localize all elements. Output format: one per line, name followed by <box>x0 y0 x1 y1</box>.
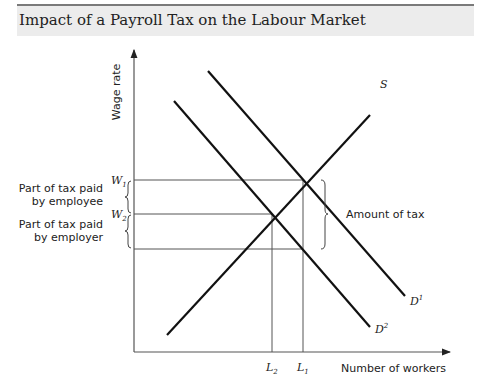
w2-label: W2 <box>111 208 127 223</box>
d2-label: D2 <box>374 322 389 336</box>
employer-share-label: Part of tax paidby employer <box>19 218 104 244</box>
employee-share-label: Part of tax paidby employee <box>19 182 103 208</box>
amount-of-tax-label: Amount of tax <box>346 208 425 221</box>
amount-of-tax-brace <box>321 180 328 249</box>
l1-label: L1 <box>296 361 309 376</box>
x-axis-label: Number of workers <box>341 362 446 375</box>
labour-market-chart: Wage rate Number of workers S D1 D2 W1 W… <box>0 0 481 392</box>
l2-label: L2 <box>265 361 278 376</box>
supply-label: S <box>380 78 388 91</box>
demand-curve-d1 <box>208 71 405 296</box>
supply-curve <box>167 115 370 335</box>
y-axis-label: Wage rate <box>110 64 123 121</box>
d1-label: D1 <box>409 294 423 308</box>
w1-label: W1 <box>111 174 127 189</box>
